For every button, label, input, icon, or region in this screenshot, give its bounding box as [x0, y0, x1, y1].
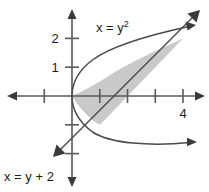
- x-tick-label-4: 4: [179, 106, 186, 121]
- x-axis-right-arrow-icon: [195, 92, 205, 101]
- parabola-equation-main: x = y: [96, 20, 124, 35]
- coordinate-plane-graphic: 2 1 4 x = y2 x = y + 2: [0, 0, 209, 192]
- x-axis-left-arrow-icon: [7, 92, 17, 101]
- y-axis-up-arrow-icon: [68, 9, 77, 19]
- parabola-equation-label: x = y2: [96, 19, 129, 35]
- y-tick-label-1: 1: [51, 60, 58, 75]
- y-axis-down-arrow-icon: [68, 177, 77, 187]
- math-figure: 2 1 4 x = y2 x = y + 2: [0, 0, 209, 192]
- line-equation-label: x = y + 2: [4, 169, 54, 184]
- line-curve: [57, 14, 196, 153]
- parabola-equation-exponent: 2: [124, 19, 129, 29]
- parabola-lower-arrow-icon: [187, 138, 197, 146]
- y-tick-label-2: 2: [51, 31, 58, 46]
